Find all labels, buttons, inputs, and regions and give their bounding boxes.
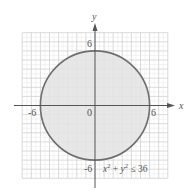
x-axis-label: x — [178, 100, 184, 111]
coordinate-plane: x y -6 6 6 -6 0 x2 + y2 ≤ 36 — [0, 0, 191, 196]
figure: x y -6 6 6 -6 0 x2 + y2 ≤ 36 — [0, 0, 191, 196]
origin-label: 0 — [87, 107, 92, 118]
x-axis-arrow-icon — [167, 103, 175, 108]
tick-label-x-neg6: -6 — [28, 107, 36, 118]
y-axis-label: y — [91, 11, 97, 22]
tick-label-y-neg6: -6 — [84, 163, 92, 174]
y-axis-arrow-icon — [93, 23, 98, 31]
tick-label-x-6: 6 — [151, 107, 156, 118]
tick-label-y-6: 6 — [87, 38, 92, 49]
